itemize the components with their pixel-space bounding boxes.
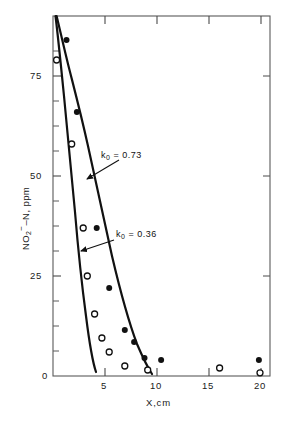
annotation-k0-073: k0 = 0.73	[101, 150, 142, 160]
data-point-filled	[64, 37, 70, 43]
x-major-ticks	[105, 368, 261, 376]
data-point-open	[84, 273, 90, 279]
annotation-k0-073-value: = 0.73	[113, 150, 141, 160]
y-axis-title-subscript: 2	[25, 231, 32, 235]
annotation-k0-036-subscript: 0	[121, 233, 125, 240]
y-axis-title-prefix: NO	[20, 235, 31, 250]
data-point-open	[122, 363, 128, 369]
curve-k0-073	[57, 16, 152, 374]
data-point-open	[145, 367, 151, 373]
data-point-open	[257, 370, 263, 376]
data-point-open	[80, 225, 86, 231]
x-tick-label-10: 10	[150, 380, 162, 391]
x-tick-label-20: 20	[254, 380, 266, 391]
data-point-filled	[142, 355, 148, 361]
y-tick-label-50: 50	[30, 170, 42, 181]
data-point-open	[217, 365, 223, 371]
data-point-filled	[158, 357, 164, 363]
axes-border	[53, 16, 270, 376]
y-minor-ticks	[53, 51, 59, 351]
curve-k0-036	[56, 16, 97, 372]
series-open-circles	[54, 57, 263, 376]
y-axis-title-suffix: –N, ppm	[20, 187, 31, 226]
y-tick-label-25: 25	[30, 270, 42, 281]
data-point-open	[92, 311, 98, 317]
x-tick-label-15: 15	[202, 380, 214, 391]
data-point-filled	[74, 109, 80, 115]
data-point-filled	[256, 357, 262, 363]
plot-frame	[53, 16, 270, 376]
figure-container: 75 50 25 0 5 10 15 20 NO2−–N, ppm X,cm k…	[0, 0, 283, 421]
annotation-k0-036-value: = 0.36	[128, 229, 156, 239]
x-tick-label-5: 5	[101, 380, 107, 391]
x-axis-title: X,cm	[146, 397, 171, 408]
data-point-open	[69, 141, 75, 147]
data-point-filled	[106, 285, 112, 291]
data-point-filled	[94, 225, 100, 231]
y-axis-title-superscript: −	[17, 226, 26, 231]
scatter-plot-svg	[0, 0, 283, 421]
y-ticks-right	[263, 76, 270, 276]
y-tick-label-75: 75	[30, 70, 42, 81]
data-point-open	[54, 57, 60, 63]
data-point-open	[99, 335, 105, 341]
x-major-ticks-top	[105, 16, 261, 24]
data-point-filled	[122, 327, 128, 333]
y-tick-label-0: 0	[42, 370, 48, 381]
annotation-k0-036: k0 = 0.36	[116, 229, 157, 239]
y-major-ticks	[53, 76, 61, 276]
y-axis-title: NO2−–N, ppm	[18, 187, 31, 250]
data-point-filled	[131, 339, 137, 345]
data-point-open	[106, 349, 112, 355]
annotation-k0-073-subscript: 0	[106, 154, 110, 161]
